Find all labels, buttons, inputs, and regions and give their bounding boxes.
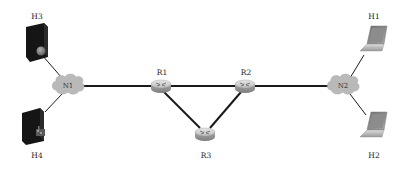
laptop-icon xyxy=(360,26,387,51)
node-h4[interactable]: H4 xyxy=(22,108,45,160)
node-label-h4: H4 xyxy=(31,151,43,160)
server-icon xyxy=(26,23,48,62)
server-icon xyxy=(22,108,45,145)
node-n1[interactable]: N1 xyxy=(52,74,84,94)
node-r3[interactable]: R3 xyxy=(195,128,215,160)
node-label-h2: H2 xyxy=(368,151,380,160)
network-diagram: H3 H4 N1 R1 R xyxy=(0,0,402,169)
link-h4-n1 xyxy=(45,94,62,112)
link-h3-n1 xyxy=(42,55,62,78)
router-icon xyxy=(235,80,255,93)
node-label-h1: H1 xyxy=(368,12,379,21)
laptop-icon xyxy=(360,112,387,137)
node-r1[interactable]: R1 xyxy=(151,68,171,93)
link-r2-r3 xyxy=(210,92,241,128)
node-label-h3: H3 xyxy=(31,12,43,21)
link-r1-r3 xyxy=(164,92,200,128)
node-label-r1: R1 xyxy=(157,68,167,77)
link-n2-h1 xyxy=(350,55,364,78)
links xyxy=(42,55,366,128)
node-label-r3: R3 xyxy=(201,151,212,160)
router-icon xyxy=(195,128,215,141)
node-label-n2: N2 xyxy=(338,82,349,90)
node-h1[interactable]: H1 xyxy=(360,12,387,51)
node-n2[interactable]: N2 xyxy=(327,74,359,94)
node-label-n1: N1 xyxy=(63,82,74,90)
node-label-r2: R2 xyxy=(241,68,252,77)
node-r2[interactable]: R2 xyxy=(235,68,255,93)
router-icon xyxy=(151,80,171,93)
node-h2[interactable]: H2 xyxy=(360,112,387,160)
link-n2-h2 xyxy=(350,94,366,115)
node-h3[interactable]: H3 xyxy=(26,12,48,62)
